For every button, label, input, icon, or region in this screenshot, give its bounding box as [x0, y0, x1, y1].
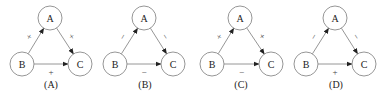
node-c: C	[161, 52, 185, 76]
node-c: C	[259, 52, 283, 76]
diagram-a: +++ABC(A)	[10, 6, 92, 91]
signed-triad-diagrams: +++ABC(A)−−−ABC(B)++−ABC(C)−−+ABC(D)	[0, 0, 387, 94]
edge-sign-label: +	[214, 32, 225, 42]
arrow-line	[341, 28, 357, 54]
node-b: B	[200, 52, 224, 76]
edge-a-to-c: −	[341, 28, 361, 54]
node-label: A	[236, 13, 244, 24]
node-label: A	[140, 13, 148, 24]
edge-sign-label: +	[66, 32, 77, 42]
edge-b-to-c: −	[127, 64, 161, 77]
node-a: A	[228, 6, 252, 30]
edge-a-to-c: +	[57, 28, 78, 54]
edge-sign-label: −	[141, 67, 146, 77]
edge-b-to-a: +	[214, 28, 234, 53]
diagram-caption: (C)	[234, 79, 247, 91]
edge-sign-label: −	[160, 32, 171, 42]
node-label: C	[77, 59, 84, 70]
arrow-line	[150, 28, 166, 54]
node-label: B	[112, 59, 119, 70]
arrow-line	[57, 28, 74, 54]
node-a: A	[132, 6, 156, 30]
node-label: A	[331, 13, 339, 24]
node-b: B	[103, 52, 127, 76]
node-label: B	[209, 59, 216, 70]
node-label: C	[361, 59, 368, 70]
edge-b-to-c: +	[318, 64, 352, 77]
node-b: B	[10, 52, 34, 76]
node-a: A	[38, 6, 62, 30]
diagram-caption: (A)	[44, 79, 58, 91]
diagram-caption: (B)	[138, 79, 151, 91]
diagram-caption: (D)	[329, 79, 343, 91]
node-label: C	[170, 59, 177, 70]
edge-sign-label: −	[351, 32, 362, 42]
node-a: A	[323, 6, 347, 30]
node-label: B	[19, 59, 26, 70]
edge-b-to-c: −	[224, 64, 259, 77]
diagram-c: ++−ABC(C)	[200, 6, 283, 91]
node-label: B	[303, 59, 310, 70]
node-c: C	[68, 52, 92, 76]
edge-sign-label: +	[48, 67, 53, 77]
edge-b-to-a: −	[308, 28, 328, 54]
edge-sign-label: −	[308, 32, 319, 42]
diagram-d: −−+ABC(D)	[294, 6, 376, 91]
edge-a-to-c: −	[150, 28, 170, 54]
edge-a-to-c: +	[247, 28, 268, 54]
edge-b-to-a: +	[24, 28, 44, 53]
edge-b-to-a: −	[117, 28, 137, 54]
edge-sign-label: +	[257, 32, 268, 42]
node-b: B	[294, 52, 318, 76]
arrow-line	[247, 28, 265, 54]
node-label: A	[46, 13, 54, 24]
edge-sign-label: +	[24, 32, 35, 42]
edge-b-to-c: +	[34, 64, 68, 77]
edge-sign-label: −	[117, 32, 128, 42]
edge-sign-label: −	[239, 67, 244, 77]
edge-sign-label: +	[332, 67, 337, 77]
diagram-b: −−−ABC(B)	[103, 6, 185, 91]
node-label: C	[268, 59, 275, 70]
node-c: C	[352, 52, 376, 76]
